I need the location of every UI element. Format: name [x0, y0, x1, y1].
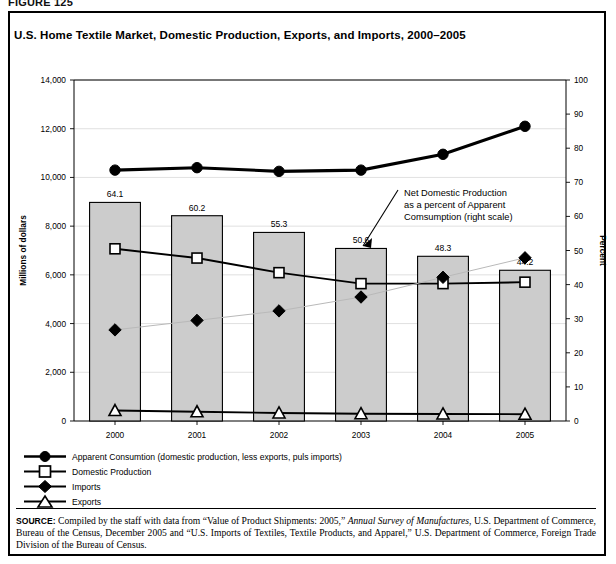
- chart-title: U.S. Home Textile Market, Domestic Produ…: [14, 29, 466, 41]
- legend-item: Imports: [22, 479, 442, 494]
- circle-filled-icon: [22, 449, 68, 464]
- legend-label: Imports: [72, 482, 101, 492]
- legend-item: Apparent Consumtion (domestic production…: [22, 449, 442, 464]
- triangle-open-icon: [22, 494, 68, 509]
- square-open-icon: [22, 464, 68, 479]
- chart-legend: Apparent Consumtion (domestic production…: [22, 449, 442, 509]
- source-note: SOURCE: Compiled by the staff with data …: [16, 515, 596, 552]
- figure-label: FIGURE 125: [8, 0, 73, 8]
- source-italic-title: Annual Survey of Manufactures: [348, 515, 469, 526]
- source-divider: [16, 508, 596, 509]
- source-text-part1: Compiled by the staff with data from “Va…: [56, 515, 348, 526]
- legend-label: Apparent Consumtion (domestic production…: [72, 452, 342, 462]
- source-heading: SOURCE:: [16, 516, 56, 526]
- diamond-filled-icon: [22, 479, 68, 494]
- legend-label: Exports: [72, 497, 101, 507]
- legend-item: Exports: [22, 494, 442, 509]
- legend-item: Domestic Production: [22, 464, 442, 479]
- legend-label: Domestic Production: [72, 467, 151, 477]
